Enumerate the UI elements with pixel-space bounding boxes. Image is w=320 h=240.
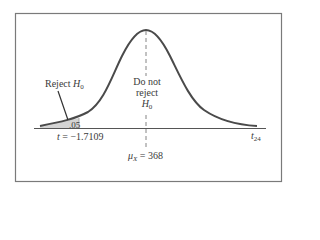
do-not-h0: H0 xyxy=(133,98,161,113)
h-symbol: H0 xyxy=(73,78,84,89)
reject-text: Reject xyxy=(45,78,71,89)
do-not-reject-label: Do not reject H0 xyxy=(132,76,162,113)
reject-h0-label: Reject H0 xyxy=(45,78,84,93)
reject-pointer-line xyxy=(58,91,68,120)
alpha-label: .05 xyxy=(69,120,80,131)
axis-label-t24: t24 xyxy=(251,130,261,145)
critical-value-label: t = −1.7109 xyxy=(57,131,104,142)
mean-label: μX = 368 xyxy=(128,150,163,165)
do-not-line2: reject xyxy=(133,87,161,98)
do-not-line1: Do not xyxy=(133,76,161,87)
